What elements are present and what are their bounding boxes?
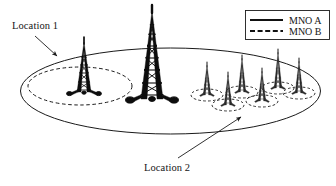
location-2-arrow [178, 117, 241, 158]
legend: MNO A MNO B [246, 11, 330, 40]
small-cell-tower-4 [255, 68, 270, 103]
small-cell-coverage-6 [283, 87, 315, 99]
small-cell-tower-1 [200, 62, 215, 97]
small-cell-coverage-1 [191, 89, 223, 101]
location-1-label: Location 1 [12, 20, 58, 31]
small-cell-coverage-4 [246, 95, 278, 107]
small-cell-tower-3 [235, 55, 250, 94]
mno-a-macro-coverage-ellipse [21, 48, 321, 134]
small-cell-tower-5 [271, 49, 286, 90]
small-cell-coverage-2 [212, 99, 244, 111]
macro-tower-medium [67, 37, 102, 96]
location-2-label: Location 2 [144, 162, 190, 173]
macro-tower-large [126, 5, 179, 103]
figure-root: MNO A MNO B Location 1 Location 2 [0, 0, 336, 186]
location-1-arrow [35, 36, 57, 56]
legend-label-mno-a: MNO A [289, 15, 322, 26]
legend-label-mno-b: MNO B [289, 26, 322, 37]
